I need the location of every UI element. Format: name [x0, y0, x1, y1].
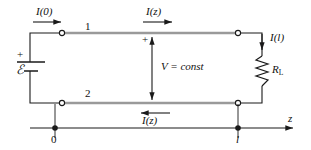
- source-polarity-plus: +: [17, 49, 23, 60]
- load-resistor-label: R: [272, 63, 279, 75]
- terminal-node-bottom-left: [59, 100, 64, 105]
- current-top-label: I(z): [146, 6, 161, 17]
- voltage-label: V = const: [161, 60, 204, 72]
- load-bottom-lead: [238, 86, 262, 103]
- terminal-node-top-right: [235, 30, 240, 35]
- axis-origin-dot: [52, 125, 58, 131]
- conductor-2-label: 2: [85, 88, 91, 99]
- circuit-schematic: [0, 0, 311, 150]
- axis-name-label: z: [288, 113, 292, 124]
- source-top-lead: [30, 33, 62, 62]
- current-load-label: I(l): [270, 32, 284, 43]
- voltage-polarity-plus: +: [142, 34, 148, 45]
- current-bottom-label: I(z): [142, 115, 157, 126]
- source-branch: [30, 33, 62, 103]
- axis-length-dot: [235, 125, 241, 131]
- conductor-1-label: 1: [85, 21, 91, 32]
- axis-length-label: l: [236, 134, 239, 145]
- current-input-label: I(0): [36, 6, 53, 17]
- axis-origin-label: 0: [51, 134, 57, 145]
- load-resistor-subscript: L: [279, 68, 284, 77]
- load-resistor-zigzag: [256, 56, 268, 86]
- source-emf-label: ℰ: [16, 63, 24, 76]
- terminal-node-top-left: [59, 30, 64, 35]
- load-branch: [238, 33, 262, 103]
- load-top-lead: [238, 33, 262, 56]
- transmission-line-figure: I(0) I(z) I(z) I(l) 1 2 + V = const + ℰ …: [0, 0, 311, 150]
- source-bottom-lead: [30, 71, 62, 103]
